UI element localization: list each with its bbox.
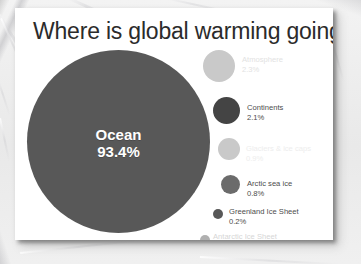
legend-value-arctic-sea-ice: 0.8% [247,189,292,199]
legend-name-atmosphere: Atmosphere [242,55,283,65]
legend-value-continents: 2.1% [247,113,283,123]
legend-label-greenland-ice-sheet: Greenland Ice Sheet0.2% [229,207,299,226]
bubble-greenland-ice-sheet [213,209,223,219]
bubble-continents [213,97,240,124]
legend-label-continents: Continents2.1% [247,103,283,122]
legend-value-greenland-ice-sheet: 0.2% [229,217,299,227]
legend-value-atmosphere: 2.3% [242,65,283,75]
bubble-ocean-label: Ocean 93.4% [27,126,210,160]
backdrop-streak [200,256,340,264]
presentation-slide: Where is global warming going? Ocean 93.… [15,8,333,240]
page-title: Where is global warming going? [33,16,333,46]
legend-label-antarctic-ice-sheet: Antarctic Ice Sheet0.2% [213,232,277,240]
backdrop-streak [20,239,140,254]
legend-label-arctic-sea-ice: Arctic sea ice0.8% [247,179,292,198]
bubble-ocean-value: 93.4% [27,143,210,160]
legend-name-antarctic-ice-sheet: Antarctic Ice Sheet [213,232,277,240]
bubble-antarctic-ice-sheet [200,235,210,240]
legend-name-glaciers-and-ice-caps: Glaciers & ice caps [246,144,311,154]
bubble-ocean-name: Ocean [96,126,142,143]
bubble-arctic-sea-ice [221,175,240,194]
legend-value-glaciers-and-ice-caps: 0.9% [246,154,311,164]
legend-name-continents: Continents [247,103,283,113]
bubble-atmosphere [203,50,235,82]
bubble-glaciers-and-ice-caps [218,138,240,160]
legend-label-glaciers-and-ice-caps: Glaciers & ice caps0.9% [246,144,311,163]
legend-label-atmosphere: Atmosphere2.3% [242,55,283,74]
backdrop-streak [0,118,10,161]
legend-name-greenland-ice-sheet: Greenland Ice Sheet [229,207,299,217]
legend-name-arctic-sea-ice: Arctic sea ice [247,179,292,189]
backdrop-streak [0,70,11,116]
